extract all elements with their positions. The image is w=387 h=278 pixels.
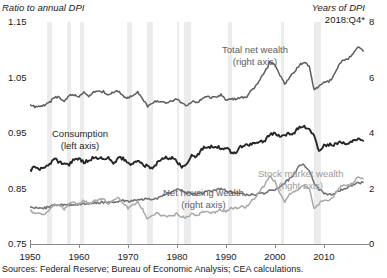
series-label-net-housing-wealth-name: Net housing wealth xyxy=(163,187,244,198)
y-axis-left-tick: 1.05 xyxy=(8,72,38,83)
y-axis-right-tick: 2 xyxy=(369,183,385,194)
series-label-stock-market-wealth: Stock market wealth (right axis) xyxy=(258,168,344,191)
x-axis-tickmark xyxy=(128,244,129,248)
series-label-net-housing-wealth-axis: (right axis) xyxy=(163,199,244,211)
x-axis-tick: 1970 xyxy=(108,251,148,262)
source-note: Sources: Federal Reserve; Bureau of Econ… xyxy=(2,264,303,274)
y-axis-left-tick: 0.85 xyxy=(8,183,38,194)
series-label-total-net-wealth-name: Total net wealth xyxy=(222,44,288,55)
x-axis-tickmark xyxy=(177,244,178,248)
series-line-total-net-wealth xyxy=(30,47,363,108)
y-axis-right-tick: 8 xyxy=(369,16,385,27)
series-label-stock-market-wealth-axis: (right axis) xyxy=(258,180,344,192)
series-label-net-housing-wealth: Net housing wealth (right axis) xyxy=(163,187,244,210)
series-label-stock-market-wealth-name: Stock market wealth xyxy=(258,168,344,179)
x-axis-tickmark xyxy=(226,244,227,248)
x-axis-tick: 1950 xyxy=(10,251,50,262)
x-axis-tick: 2000 xyxy=(255,251,295,262)
x-axis-tickmark xyxy=(79,244,80,248)
series-label-total-net-wealth: Total net wealth (right axis) xyxy=(222,44,288,67)
x-axis-tickmark xyxy=(324,244,325,248)
right-axis-title: Years of DPI xyxy=(312,2,365,13)
y-axis-left-tick: 0.75 xyxy=(8,238,38,249)
y-axis-right-tick: 0 xyxy=(369,238,385,249)
x-axis-tick: 1960 xyxy=(59,251,99,262)
series-label-consumption-axis: (left axis) xyxy=(52,140,108,152)
x-axis-tick: 1980 xyxy=(157,251,197,262)
x-axis-tick: 2010 xyxy=(304,251,344,262)
y-axis-left-tick: 0.95 xyxy=(8,127,38,138)
series-label-total-net-wealth-axis: (right axis) xyxy=(222,56,288,68)
wealth-and-consumption-chart: Ratio to annual DPI Years of DPI 2018:Q4… xyxy=(0,0,387,278)
x-axis-tickmark xyxy=(275,244,276,248)
series-label-consumption: Consumption (left axis) xyxy=(52,128,108,151)
y-axis-right-tick: 6 xyxy=(369,72,385,83)
left-axis-title: Ratio to annual DPI xyxy=(2,2,84,13)
y-axis-right-tick: 4 xyxy=(369,127,385,138)
x-axis-tick: 1990 xyxy=(206,251,246,262)
x-axis-line xyxy=(30,244,369,245)
series-label-consumption-name: Consumption xyxy=(52,128,108,139)
y-axis-left-tick: 1.15 xyxy=(8,16,38,27)
